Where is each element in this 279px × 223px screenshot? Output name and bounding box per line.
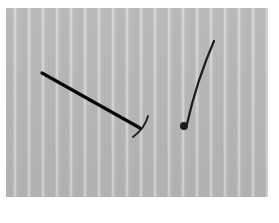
pin-object [180,41,214,130]
objects-layer [0,0,279,223]
pickaxe-object [42,73,148,137]
